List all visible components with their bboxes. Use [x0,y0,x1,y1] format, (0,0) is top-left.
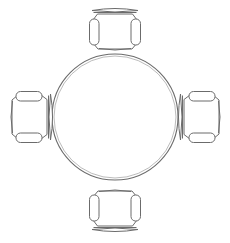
chair-west-body [11,92,53,143]
chair-south[interactable] [90,190,141,232]
floor-plan-canvas [0,0,230,243]
chair-south-body [90,190,141,232]
chair-east[interactable] [179,92,221,143]
chair-north[interactable] [90,9,141,51]
chair-west[interactable] [11,92,53,143]
floor-plan-drawing [0,0,230,243]
chair-north-body [90,9,141,51]
table-outer-edge [52,54,178,180]
chair-east-body [179,92,221,143]
round-table[interactable] [52,54,178,180]
